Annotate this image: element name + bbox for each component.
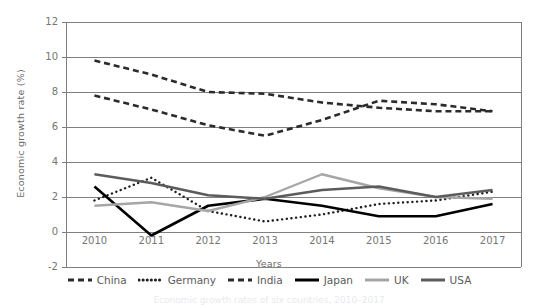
legend-swatch-icon: [227, 275, 253, 285]
legend-item-usa[interactable]: USA: [420, 274, 472, 286]
axis-frame: [62, 22, 521, 267]
legend-item-india[interactable]: India: [227, 274, 283, 286]
legend-label: India: [257, 274, 283, 286]
legend-label: USA: [450, 274, 472, 286]
legend-item-japan[interactable]: Japan: [294, 274, 353, 286]
legend-item-china[interactable]: China: [67, 274, 127, 286]
legend-swatch-icon: [364, 275, 390, 285]
figure-caption: Economic growth rates of six countries, …: [0, 295, 538, 305]
legend-swatch-icon: [294, 275, 320, 285]
legend-swatch-icon: [138, 275, 164, 285]
legend-swatch-icon: [420, 275, 446, 285]
series-line-india: [94, 96, 492, 136]
legend-label: China: [97, 274, 127, 286]
legend-label: Germany: [168, 274, 216, 286]
legend-swatch-icon: [67, 275, 93, 285]
gridlines: [66, 22, 521, 232]
legend-item-uk[interactable]: UK: [364, 274, 409, 286]
legend-label: Japan: [324, 274, 353, 286]
data-series-group: [94, 61, 492, 236]
legend-label: UK: [394, 274, 409, 286]
chart-legend: ChinaGermanyIndiaJapanUKUSA: [0, 274, 538, 286]
legend-item-germany[interactable]: Germany: [138, 274, 216, 286]
